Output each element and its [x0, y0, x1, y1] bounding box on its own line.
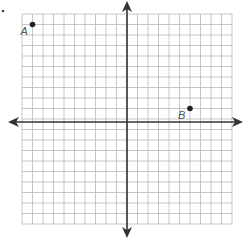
- stray-bullet: [2, 10, 5, 13]
- coordinate-plane: AB: [0, 0, 243, 238]
- point-marker: [30, 22, 36, 28]
- point-a: A: [20, 22, 36, 37]
- point-label: A: [20, 25, 28, 37]
- point-b: B: [178, 106, 193, 121]
- point-marker: [187, 106, 193, 112]
- point-label: B: [178, 109, 185, 121]
